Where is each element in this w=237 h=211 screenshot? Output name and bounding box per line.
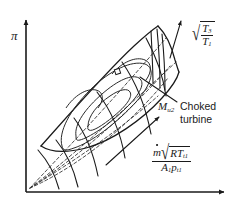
radical-body: T3 T1 [200, 21, 214, 48]
flow-radical-sign: √ [161, 143, 169, 163]
right-cap [158, 26, 179, 72]
radical-sign: √ [192, 24, 200, 44]
pressure-subscript: t1 [177, 166, 182, 173]
mach-symbol: M [158, 100, 167, 112]
peak-efficiency-marker [114, 68, 120, 74]
choked-turbine-label: Choked turbine [180, 100, 232, 126]
y-axis-label: π [11, 29, 18, 43]
T1-subscript: 1 [208, 40, 211, 47]
sqrt-radical: √ T3 T1 [192, 21, 215, 48]
T3-subscript: 3 [208, 27, 211, 34]
flow-radical: √RTt1 [161, 146, 190, 161]
temperature-ratio-label: √ T3 T1 [192, 21, 215, 48]
flow-radical-body: RTt1 [169, 146, 190, 160]
compressor-map-figure: π √ T3 T1 Mu2 Choked turbine m√RTt1 A1pt… [0, 0, 237, 211]
flow-numerator: m√RTt1 [152, 146, 191, 162]
temperature-ratio-fraction: T3 T1 [201, 23, 212, 48]
temp-ratio-direction-arrow [170, 21, 181, 58]
x-axis-label: m√RTt1 A1pt1 [152, 146, 191, 174]
peak-efficiency-square [114, 68, 120, 74]
temperature-ratio-denominator: T1 [201, 36, 212, 48]
RT-subscript: t1 [183, 153, 188, 160]
RT-symbol: RT [170, 147, 183, 159]
mach-subscript: u2 [167, 106, 174, 114]
flow-parameter-fraction: m√RTt1 A1pt1 [152, 146, 191, 174]
flow-denominator: A1pt1 [152, 162, 191, 174]
m-symbol: m [153, 146, 161, 158]
mass-flow-symbol: m [153, 147, 161, 159]
mass-flow-dot [156, 144, 158, 146]
surge-line-upper-envelope [41, 26, 158, 146]
dashed-ray-5 [30, 96, 158, 188]
tip-mach-number-label: Mu2 [158, 101, 174, 114]
efficiency-island-middle [76, 77, 142, 140]
